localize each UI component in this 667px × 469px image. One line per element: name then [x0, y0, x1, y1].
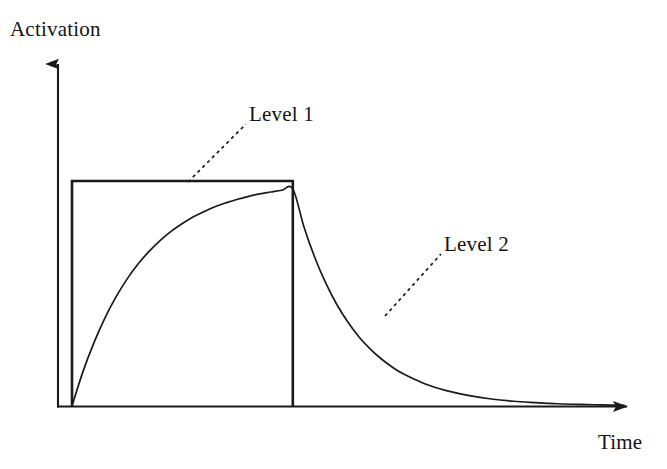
activation-time-figure: Activation Time Level 1 Level 2	[0, 0, 667, 469]
level-1-pulse-curve	[72, 181, 293, 406]
level-1-leader-line	[188, 124, 246, 182]
level-2-activation-curve	[72, 186, 624, 406]
x-axis-label: Time	[598, 430, 642, 455]
y-axis-label: Activation	[10, 17, 101, 42]
figure-canvas	[0, 0, 667, 469]
level-2-leader-line	[385, 254, 441, 316]
level-1-annotation-label: Level 1	[249, 102, 314, 127]
level-2-annotation-label: Level 2	[444, 232, 509, 257]
